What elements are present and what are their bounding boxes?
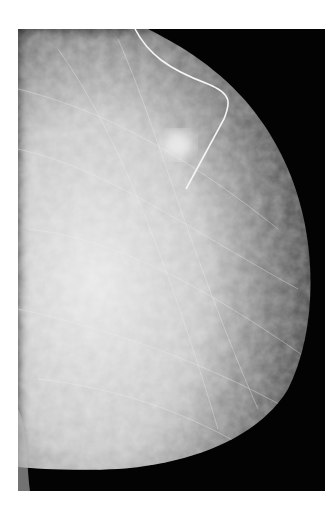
mammogram-image <box>18 29 325 491</box>
breast-tissue-graphic <box>18 29 325 491</box>
mass-lesion <box>162 131 194 159</box>
